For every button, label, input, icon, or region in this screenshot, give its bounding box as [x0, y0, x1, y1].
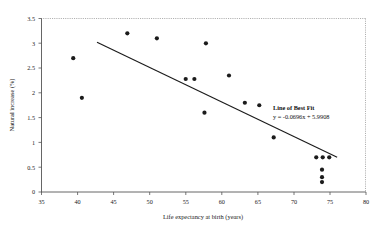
scatter-point [320, 180, 324, 184]
scatter-point [243, 101, 247, 105]
y-tick-label-4: 2 [32, 89, 35, 96]
y-tick-label-3: 1.5 [27, 114, 35, 121]
scatter-point [71, 56, 75, 60]
x-tick-label-6: 65 [255, 198, 261, 205]
fit-annotation-title: Line of Best Fit [273, 104, 315, 111]
scatter-point [257, 103, 261, 107]
scatter-point [227, 73, 231, 77]
scatter-point [320, 168, 324, 172]
fit-annotation: Line of Best Fit y = -0.0696x + 5.9908 [273, 104, 329, 120]
scatter-point [272, 135, 276, 139]
scatter-point [202, 111, 206, 115]
line-of-best-fit [97, 42, 337, 157]
plot-frame [41, 19, 366, 193]
y-tick-label-0: 0 [32, 188, 35, 195]
x-tick-label-9: 80 [363, 198, 369, 205]
y-tick-label-7: 3.5 [27, 15, 35, 22]
x-tick-label-7: 70 [291, 198, 297, 205]
x-tick-label-3: 50 [147, 198, 153, 205]
x-axis-ticks: 35 40 45 50 55 60 65 70 75 80 [38, 192, 369, 205]
fit-line-segment [97, 42, 337, 157]
x-tick-label-8: 75 [327, 198, 333, 205]
x-tick-label-0: 35 [38, 198, 44, 205]
x-tick-label-5: 60 [219, 198, 225, 205]
scatter-point [192, 77, 196, 81]
scatter-point [155, 36, 159, 40]
x-tick-label-4: 55 [183, 198, 189, 205]
y-tick-label-5: 2.5 [27, 64, 35, 71]
y-axis-title: Natural increase (%) [8, 79, 16, 132]
scatter-chart-figure: 0 0.5 1 1.5 2 2.5 3 3.5 35 40 45 50 55 [0, 0, 384, 238]
x-axis-title: Life expectancy at birth (years) [163, 213, 243, 221]
scatter-point [314, 155, 318, 159]
scatter-point [320, 175, 324, 179]
chart-svg: 0 0.5 1 1.5 2 2.5 3 3.5 35 40 45 50 55 [0, 0, 384, 238]
scatter-point [321, 155, 325, 159]
y-axis-ticks: 0 0.5 1 1.5 2 2.5 3 3.5 [27, 15, 41, 196]
y-tick-label-2: 1 [32, 139, 35, 146]
scatter-point [80, 96, 84, 100]
x-tick-label-2: 45 [111, 198, 117, 205]
scatter-point [184, 77, 188, 81]
y-tick-label-1: 0.5 [27, 164, 35, 171]
scatter-point [125, 31, 129, 35]
x-tick-label-1: 40 [75, 198, 81, 205]
y-tick-label-6: 3 [32, 40, 35, 47]
scatter-point [204, 41, 208, 45]
scatter-point [327, 155, 331, 159]
fit-annotation-equation: y = -0.0696x + 5.9908 [273, 113, 329, 120]
